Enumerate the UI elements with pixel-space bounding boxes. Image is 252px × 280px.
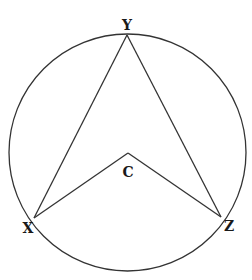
label-y: Y <box>121 17 133 33</box>
circle <box>9 34 246 271</box>
label-x: X <box>23 220 34 236</box>
segment-cz <box>128 153 221 217</box>
segment-yz <box>127 35 221 217</box>
segment-xc <box>34 153 128 218</box>
label-z: Z <box>224 218 234 234</box>
circle-diagram: Y X Z C <box>0 0 252 280</box>
segment-xy <box>34 35 127 218</box>
label-c: C <box>122 164 133 180</box>
